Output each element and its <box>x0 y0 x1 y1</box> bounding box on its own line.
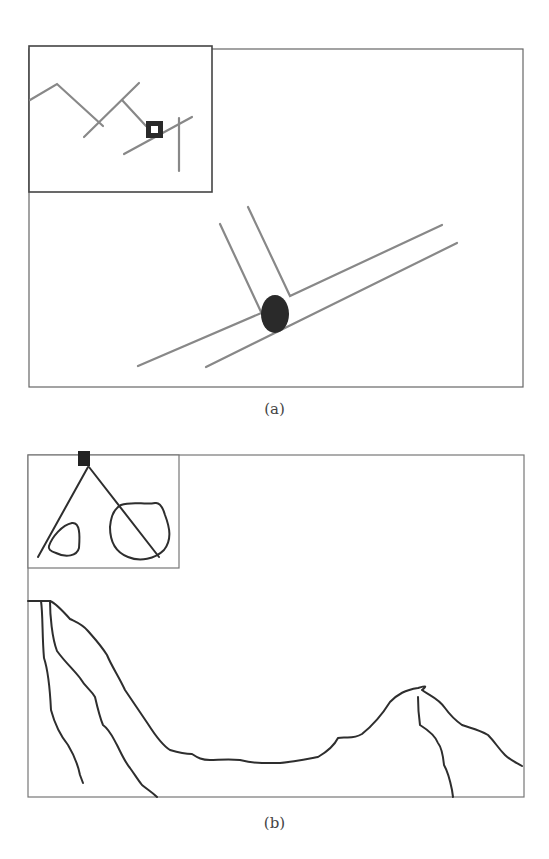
caption-b: (b) <box>0 814 549 832</box>
parallel-line-lower <box>206 243 457 367</box>
panel-a <box>29 46 523 387</box>
panel-b <box>28 451 524 797</box>
terrain-curve-middle <box>50 601 157 797</box>
inset-square-marker <box>78 451 90 466</box>
panel-b-inset <box>28 451 179 568</box>
panel-a-inset <box>29 46 212 192</box>
figure-canvas <box>0 0 549 859</box>
caption-a: (a) <box>0 400 549 418</box>
parallel-line-upper <box>138 311 266 366</box>
terrain-curve-left <box>41 601 83 783</box>
terrain-curve-main <box>28 601 522 766</box>
node-ellipse <box>261 295 289 333</box>
branch-line-right <box>248 207 442 296</box>
branch-line-left <box>220 224 262 314</box>
